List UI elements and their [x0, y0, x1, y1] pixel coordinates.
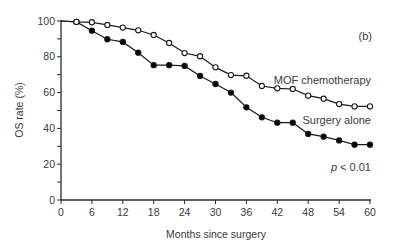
- open-circle-marker: [290, 86, 295, 91]
- open-circle-marker: [167, 40, 172, 45]
- x-tick-label: 60: [364, 206, 376, 218]
- x-tick-label: 48: [302, 206, 314, 218]
- panel-label: (b): [359, 30, 372, 42]
- y-tick-label: 20: [43, 158, 55, 170]
- filled-circle-marker: [290, 120, 295, 125]
- filled-circle-marker: [275, 120, 280, 125]
- open-circle-marker: [213, 65, 218, 70]
- y-tick-label: 80: [43, 50, 55, 62]
- series-line-mof: [61, 21, 370, 106]
- series-label-mof: MOF chemotherapy: [274, 74, 372, 86]
- open-circle-marker: [244, 73, 249, 78]
- filled-circle-marker: [89, 28, 94, 33]
- filled-circle-marker: [228, 90, 233, 95]
- filled-circle-marker: [136, 50, 141, 55]
- open-circle-marker: [352, 104, 357, 109]
- y-axis-title: OS rate (%): [13, 82, 25, 137]
- open-circle-marker: [275, 86, 280, 91]
- filled-circle-marker: [367, 142, 372, 147]
- open-circle-marker: [321, 96, 326, 101]
- filled-circle-marker: [120, 39, 125, 44]
- filled-circle-marker: [182, 63, 187, 68]
- x-tick-label: 0: [58, 206, 64, 218]
- filled-circle-marker: [306, 131, 311, 136]
- p-value-annotation: p < 0.01: [330, 161, 371, 173]
- filled-circle-marker: [213, 81, 218, 86]
- open-circle-marker: [228, 72, 233, 77]
- open-circle-marker: [367, 104, 372, 109]
- open-circle-marker: [105, 22, 110, 27]
- open-circle-marker: [89, 20, 94, 25]
- open-circle-marker: [259, 83, 264, 88]
- survival-chart: 02040608010006121824303642485460 (b) Mon…: [0, 0, 393, 246]
- filled-circle-marker: [337, 138, 342, 143]
- filled-circle-marker: [167, 63, 172, 68]
- open-circle-marker: [337, 101, 342, 106]
- open-circle-marker: [197, 54, 202, 59]
- filled-circle-marker: [197, 73, 202, 78]
- y-tick-label: 60: [43, 86, 55, 98]
- y-tick-label: 40: [43, 122, 55, 134]
- filled-circle-marker: [352, 142, 357, 147]
- x-tick-label: 30: [210, 206, 222, 218]
- open-circle-marker: [74, 19, 79, 24]
- x-tick-label: 54: [333, 206, 345, 218]
- x-tick-label: 12: [117, 206, 129, 218]
- x-axis-title: Months since surgery: [166, 228, 267, 240]
- filled-circle-marker: [151, 63, 156, 68]
- x-tick-label: 6: [89, 206, 95, 218]
- open-circle-marker: [120, 25, 125, 30]
- filled-circle-marker: [105, 37, 110, 42]
- open-circle-marker: [306, 93, 311, 98]
- filled-circle-marker: [259, 115, 264, 120]
- filled-circle-marker: [244, 105, 249, 110]
- open-circle-marker: [151, 32, 156, 37]
- filled-circle-marker: [321, 134, 326, 139]
- series-label-surgery: Surgery alone: [303, 114, 372, 126]
- p-rest: < 0.01: [337, 161, 371, 173]
- open-circle-marker: [182, 50, 187, 55]
- y-tick-label: 100: [37, 15, 55, 27]
- y-tick-label: 0: [49, 194, 55, 206]
- x-tick-label: 42: [271, 206, 283, 218]
- x-tick-label: 24: [179, 206, 191, 218]
- p-italic: p: [330, 161, 337, 173]
- x-tick-label: 36: [241, 206, 253, 218]
- open-circle-marker: [136, 28, 141, 33]
- x-tick-label: 18: [148, 206, 160, 218]
